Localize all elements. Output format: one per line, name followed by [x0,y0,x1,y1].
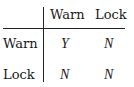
cell-lock-lock: N [104,68,113,82]
column-header-warn: Warn [50,8,85,22]
horizontal-rule [3,28,125,29]
row-header-warn: Warn [3,37,38,51]
cell-lock-warn: N [60,68,69,82]
column-header-lock: Lock [95,8,127,22]
vertical-rule [43,7,44,82]
row-header-lock: Lock [3,68,35,82]
cell-warn-lock: N [104,37,113,51]
cell-warn-warn: Y [61,37,69,51]
